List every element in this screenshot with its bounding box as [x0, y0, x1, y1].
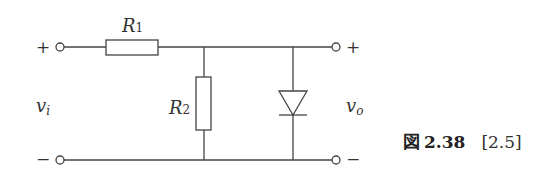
resistor-r1	[106, 40, 158, 55]
output-minus-sign: −	[346, 149, 360, 169]
terminal-output-minus	[332, 156, 340, 164]
input-plus-sign: +	[36, 37, 50, 57]
output-plus-sign: +	[346, 37, 360, 57]
terminal-input-plus	[56, 43, 64, 51]
figure-char: 図	[403, 132, 420, 152]
resistor-r2	[196, 77, 211, 130]
input-minus-sign: −	[36, 149, 50, 169]
r2-label: R2	[168, 97, 190, 118]
r1-label: R1	[121, 15, 143, 36]
vi-label: vi	[36, 95, 50, 118]
diode-triangle	[279, 91, 307, 115]
figure-number: 2.38	[424, 132, 465, 152]
terminal-output-plus	[332, 43, 340, 51]
figure-reference: [2.5]	[481, 132, 521, 152]
terminal-input-minus	[56, 156, 64, 164]
vo-label: vo	[346, 95, 363, 118]
figure-caption: 図2.38[2.5]	[403, 128, 522, 153]
